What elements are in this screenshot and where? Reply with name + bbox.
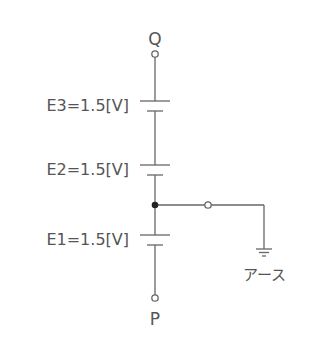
- terminal-q-label: Q: [148, 29, 161, 49]
- terminal-p-icon: [152, 295, 158, 301]
- battery-e2-icon: [140, 165, 170, 175]
- ground-icon: [256, 249, 272, 256]
- battery-e1-icon: [140, 235, 170, 245]
- junction-dot-icon: [152, 202, 159, 209]
- battery-e1-label: E1=1.5[V]: [46, 230, 129, 249]
- battery-e2-label: E2=1.5[V]: [46, 160, 129, 179]
- battery-e3-icon: [140, 101, 170, 111]
- terminal-p-label: P: [150, 309, 160, 329]
- terminal-q-icon: [152, 51, 158, 57]
- battery-e3-label: E3=1.5[V]: [46, 96, 129, 115]
- terminal-branch-icon: [205, 202, 211, 208]
- ground-label: アース: [243, 266, 286, 284]
- circuit-diagram: Q E3=1.5[V] E2=1.5[V] E1=1.5[V] アース P: [0, 0, 311, 337]
